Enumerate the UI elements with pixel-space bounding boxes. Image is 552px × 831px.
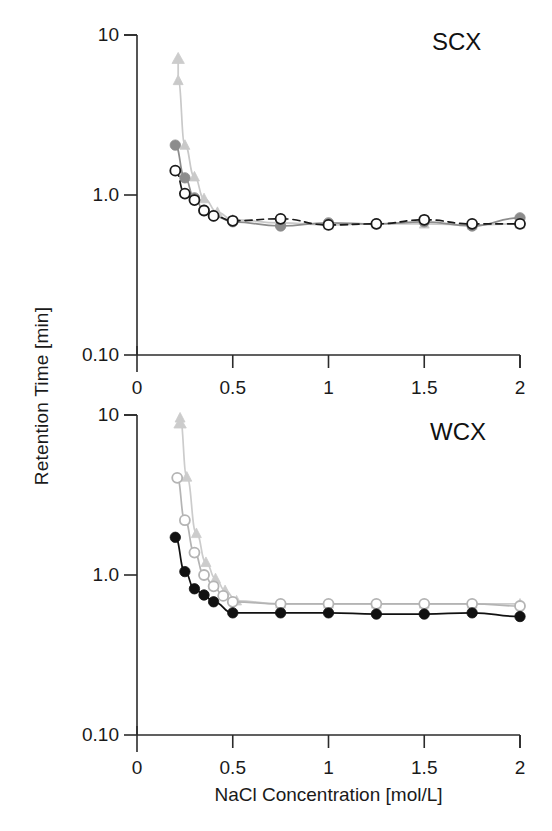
marker-open-circle bbox=[467, 219, 477, 229]
marker-open-circle bbox=[515, 219, 525, 229]
marker-filled-circle bbox=[208, 597, 218, 607]
marker-open-circle bbox=[515, 601, 525, 611]
marker-filled-circle bbox=[189, 584, 199, 594]
y-tick-label: 0.10 bbox=[82, 344, 119, 366]
marker-triangle bbox=[191, 528, 201, 538]
x-tick-label: 0.5 bbox=[220, 757, 246, 779]
marker-open-circle bbox=[371, 219, 381, 229]
marker-open-circle bbox=[199, 570, 209, 580]
marker-filled-circle bbox=[180, 173, 190, 183]
marker-open-circle bbox=[218, 591, 228, 601]
marker-open-circle bbox=[199, 206, 209, 216]
panel-title-scx: SCX bbox=[432, 28, 481, 56]
marker-filled-circle bbox=[275, 608, 285, 618]
marker-open-circle bbox=[209, 581, 219, 591]
marker-open-circle bbox=[276, 214, 286, 224]
marker-filled-circle bbox=[170, 532, 180, 542]
marker-filled-circle bbox=[371, 609, 381, 619]
marker-open-circle bbox=[228, 216, 238, 226]
series-line-filled-circle-gray bbox=[175, 145, 520, 226]
chart-panel-wcx: WCX 0.101.01000.511.52 bbox=[0, 390, 552, 790]
marker-open-circle bbox=[180, 189, 190, 199]
y-tick-label: 1.0 bbox=[93, 184, 119, 206]
marker-open-circle bbox=[419, 599, 429, 609]
marker-filled-circle bbox=[199, 590, 209, 600]
marker-filled-circle bbox=[467, 608, 477, 618]
x-tick-label: 1.5 bbox=[411, 757, 437, 779]
marker-open-circle bbox=[189, 548, 199, 558]
y-tick-label: 0.10 bbox=[82, 724, 119, 746]
marker-triangle bbox=[180, 140, 190, 150]
x-tick-label: 1 bbox=[323, 757, 334, 779]
figure-root: Retention Time [min] NaCl Concentration … bbox=[0, 0, 552, 831]
marker-filled-circle bbox=[515, 611, 525, 621]
offscale-arrow-head bbox=[174, 417, 186, 428]
marker-open-circle bbox=[172, 473, 182, 483]
marker-filled-circle bbox=[170, 140, 180, 150]
y-tick-label: 1.0 bbox=[93, 564, 119, 586]
marker-triangle bbox=[189, 171, 199, 181]
marker-open-circle bbox=[180, 515, 190, 525]
marker-triangle bbox=[182, 472, 192, 482]
marker-open-circle bbox=[209, 211, 219, 221]
marker-filled-circle bbox=[419, 609, 429, 619]
scx-plot-svg bbox=[0, 0, 552, 390]
marker-open-circle bbox=[170, 166, 180, 176]
series-line-open-circle-light-gray bbox=[177, 478, 520, 606]
marker-open-circle bbox=[419, 215, 429, 225]
marker-filled-circle bbox=[228, 608, 238, 618]
marker-open-circle bbox=[228, 597, 238, 607]
series-line-triangle-light-gray bbox=[178, 80, 520, 224]
panel-title-wcx: WCX bbox=[430, 418, 486, 446]
y-tick-label: 10 bbox=[98, 24, 119, 46]
marker-open-circle bbox=[189, 195, 199, 205]
x-tick-label: 2 bbox=[515, 757, 526, 779]
marker-filled-circle bbox=[180, 566, 190, 576]
x-tick-label: 0 bbox=[132, 757, 143, 779]
marker-open-circle bbox=[324, 220, 334, 230]
offscale-arrow-head bbox=[172, 52, 184, 63]
marker-filled-circle bbox=[323, 608, 333, 618]
y-tick-label: 10 bbox=[98, 404, 119, 426]
marker-open-circle bbox=[371, 599, 381, 609]
chart-panel-scx: SCX 0.101.01000.511.52 bbox=[0, 0, 552, 390]
